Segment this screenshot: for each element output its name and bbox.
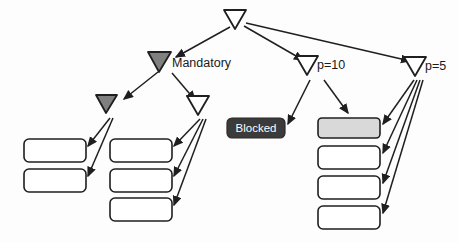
task-box[interactable] <box>318 176 380 199</box>
p10-node-label: p=10 <box>317 58 345 72</box>
edge-mandatory-leftinner <box>124 72 158 99</box>
diagram-canvas: Blocked M <box>0 0 459 242</box>
task-box[interactable] <box>318 146 380 169</box>
edge-p10-blocked <box>288 80 310 124</box>
p10-node-triangle-icon[interactable] <box>296 56 318 75</box>
edge-p5-boxr1 <box>383 80 414 124</box>
root-node-triangle-icon[interactable] <box>224 10 246 29</box>
box-r3-rect[interactable] <box>318 176 380 199</box>
blocked-box-label: Blocked <box>236 122 277 134</box>
task-box[interactable] <box>24 169 86 192</box>
p5-node-label: p=5 <box>425 59 446 73</box>
task-box[interactable] <box>110 139 172 162</box>
edge-p5-boxr3 <box>383 80 420 183</box>
box-l1-rect[interactable] <box>24 139 86 162</box>
box-r4-rect[interactable] <box>318 206 380 229</box>
task-box[interactable] <box>318 206 380 229</box>
box-layer: Blocked <box>24 118 380 229</box>
left-inner-node-triangle-icon[interactable] <box>96 95 117 113</box>
mandatory-node-triangle-icon[interactable] <box>148 52 171 72</box>
p5-node-triangle-icon[interactable] <box>404 57 426 76</box>
box-l2-rect[interactable] <box>24 169 86 192</box>
edge-root-mandatory <box>176 27 230 57</box>
box-m2-rect[interactable] <box>110 169 172 192</box>
edge-p5-boxr4 <box>383 80 423 213</box>
node-layer: Mandatory p=10 p=5 <box>96 10 446 115</box>
task-box[interactable] <box>110 198 172 221</box>
edge-rightinner-boxm3 <box>174 119 206 205</box>
diagram-svg: Blocked M <box>0 0 459 242</box>
box-m1-rect[interactable] <box>110 139 172 162</box>
task-box[interactable] <box>24 139 86 162</box>
box-m3-rect[interactable] <box>110 198 172 221</box>
box-r2-rect[interactable] <box>318 146 380 169</box>
task-box[interactable] <box>110 169 172 192</box>
edge-root-p10 <box>244 26 303 60</box>
edge-p10-boxr1 <box>324 80 348 113</box>
mandatory-node-label: Mandatory <box>172 56 232 70</box>
box-r1-rect[interactable] <box>318 118 380 138</box>
task-box-highlighted[interactable] <box>318 118 380 138</box>
blocked-box[interactable]: Blocked <box>227 118 285 138</box>
right-inner-node-triangle-icon[interactable] <box>187 96 209 115</box>
